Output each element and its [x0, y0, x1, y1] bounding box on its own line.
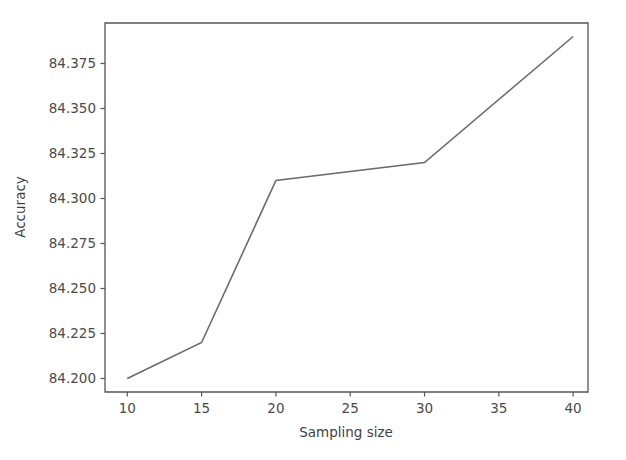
x-tick-label: 20: [267, 400, 284, 416]
y-tick-label: 84.350: [49, 100, 96, 116]
y-tick-label: 84.275: [49, 235, 96, 251]
y-tick-label: 84.325: [49, 145, 96, 161]
y-tick-label: 84.250: [49, 280, 96, 296]
x-tick-label: 15: [193, 400, 210, 416]
y-tick-label: 84.300: [49, 190, 96, 206]
y-axis-title: Accuracy: [12, 176, 28, 238]
line-chart-canvas: 10152025303540 84.20084.22584.25084.2758…: [0, 0, 626, 460]
chart-figure: 10152025303540 84.20084.22584.25084.2758…: [0, 0, 626, 460]
plot-area-background: [105, 23, 588, 392]
y-tick-label: 84.375: [49, 55, 96, 71]
y-tick-label: 84.225: [49, 325, 96, 341]
x-tick-label: 40: [565, 400, 582, 416]
y-tick-label: 84.200: [49, 370, 96, 386]
x-tick-label: 30: [416, 400, 433, 416]
x-axis-title: Sampling size: [299, 424, 393, 440]
x-tick-label: 10: [119, 400, 136, 416]
x-tick-label: 35: [490, 400, 507, 416]
x-tick-label: 25: [342, 400, 359, 416]
